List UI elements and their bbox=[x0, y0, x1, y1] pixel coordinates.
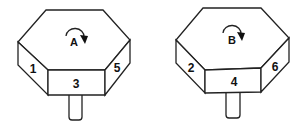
face-label-front-a: 3 bbox=[73, 77, 80, 91]
face-label-right-b: 6 bbox=[272, 60, 279, 74]
face-label-left-a: 1 bbox=[30, 62, 37, 76]
top-label-b: B bbox=[228, 34, 236, 46]
top-label-a: A bbox=[70, 36, 78, 48]
hex-piece-b: B 2 4 6 bbox=[176, 8, 289, 118]
hex-piece-a: A 1 3 5 bbox=[18, 10, 130, 120]
face-label-left-b: 2 bbox=[188, 61, 195, 75]
face-label-front-b: 4 bbox=[231, 75, 238, 89]
face-label-right-a: 5 bbox=[114, 61, 121, 75]
